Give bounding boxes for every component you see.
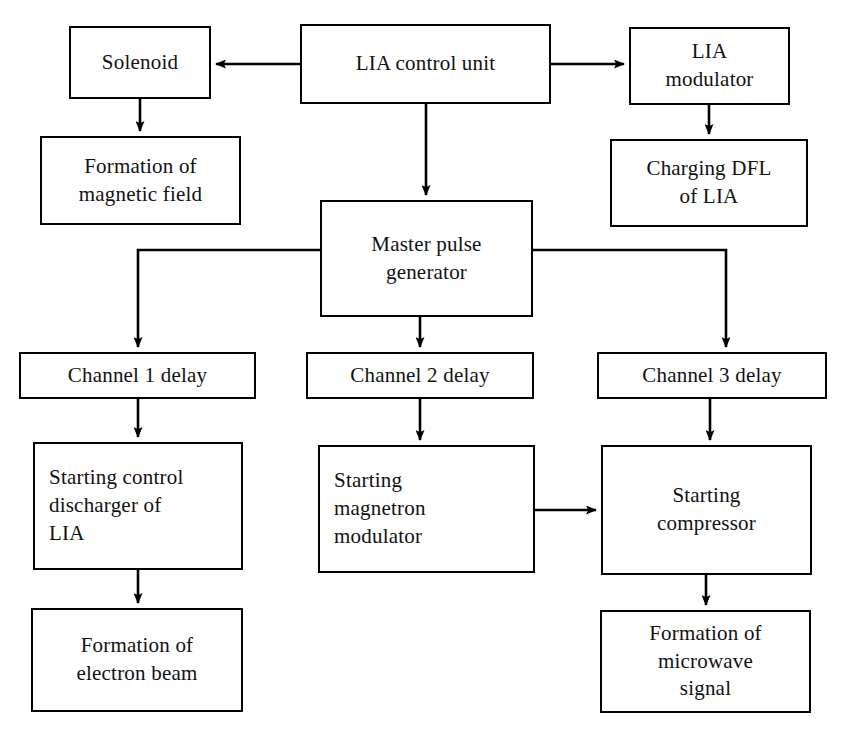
node-label-channel-2-delay: Channel 2 delay bbox=[308, 362, 532, 390]
node-lia-modulator[interactable]: LIA modulator bbox=[629, 27, 790, 105]
node-solenoid[interactable]: Solenoid bbox=[69, 26, 211, 99]
connector-master-pulse-to-channel-1 bbox=[138, 250, 320, 347]
node-label-channel-3-delay: Channel 3 delay bbox=[599, 362, 825, 390]
node-label-starting-compressor: Starting compressor bbox=[603, 482, 810, 538]
connector-master-pulse-to-channel-3 bbox=[533, 250, 726, 347]
node-label-starting-control-discharger-of-lia: Starting control discharger of LIA bbox=[35, 464, 241, 548]
node-label-lia-modulator: LIA modulator bbox=[631, 38, 788, 94]
node-label-master-pulse-generator: Master pulse generator bbox=[322, 231, 531, 287]
node-channel-2-delay[interactable]: Channel 2 delay bbox=[306, 352, 534, 399]
node-label-charging-dfl-of-lia: Charging DFL of LIA bbox=[612, 155, 806, 211]
node-label-starting-magnetron-modulator: Starting magnetron modulator bbox=[320, 467, 533, 551]
node-label-formation-of-electron-beam: Formation of electron beam bbox=[33, 632, 241, 688]
node-label-formation-of-microwave-signal: Formation of microwave signal bbox=[602, 620, 809, 704]
node-channel-3-delay[interactable]: Channel 3 delay bbox=[597, 352, 827, 399]
node-channel-1-delay[interactable]: Channel 1 delay bbox=[19, 352, 256, 399]
node-formation-of-microwave-signal[interactable]: Formation of microwave signal bbox=[600, 610, 811, 713]
node-label-channel-1-delay: Channel 1 delay bbox=[21, 362, 254, 390]
node-label-lia-control-unit: LIA control unit bbox=[302, 50, 549, 78]
node-formation-of-magnetic-field[interactable]: Formation of magnetic field bbox=[40, 136, 241, 225]
node-starting-control-discharger-of-lia[interactable]: Starting control discharger of LIA bbox=[33, 442, 243, 570]
node-formation-of-electron-beam[interactable]: Formation of electron beam bbox=[31, 608, 243, 712]
node-starting-magnetron-modulator[interactable]: Starting magnetron modulator bbox=[318, 445, 535, 573]
node-label-formation-of-magnetic-field: Formation of magnetic field bbox=[42, 153, 239, 209]
node-master-pulse-generator[interactable]: Master pulse generator bbox=[320, 200, 533, 317]
node-label-solenoid: Solenoid bbox=[71, 49, 209, 77]
node-starting-compressor[interactable]: Starting compressor bbox=[601, 445, 812, 575]
node-charging-dfl-of-lia[interactable]: Charging DFL of LIA bbox=[610, 139, 808, 227]
block-diagram: Solenoid LIA control unit LIA modulator … bbox=[0, 0, 846, 741]
node-lia-control-unit[interactable]: LIA control unit bbox=[300, 24, 551, 104]
